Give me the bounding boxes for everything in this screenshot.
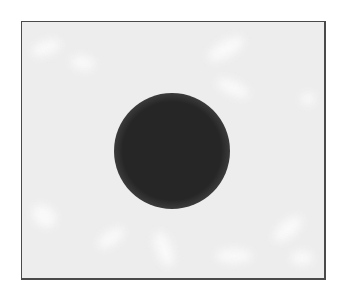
texture-blotch — [70, 54, 96, 72]
texture-blotch — [28, 200, 61, 232]
texture-blotch — [95, 224, 128, 253]
texture-blotch — [216, 249, 252, 263]
dark-circular-spot — [114, 93, 230, 209]
image-frame — [21, 21, 326, 280]
texture-blotch — [291, 251, 313, 265]
image-canvas — [0, 0, 341, 292]
texture-blotch — [270, 212, 306, 246]
texture-blotch — [150, 229, 177, 268]
texture-blotch — [30, 36, 63, 59]
texture-blotch — [215, 74, 252, 101]
texture-blotch — [205, 32, 248, 66]
texture-blotch — [301, 93, 315, 105]
